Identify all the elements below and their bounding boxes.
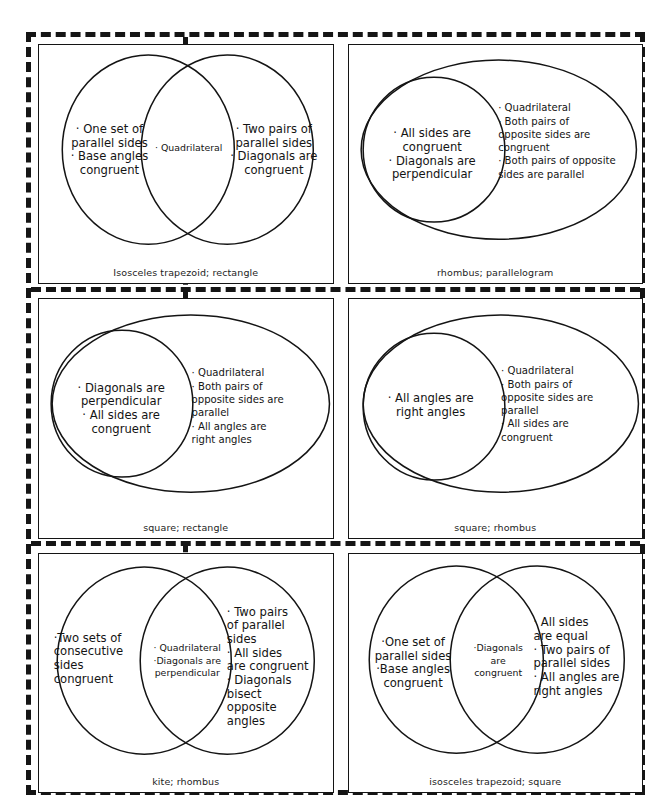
card-6-region-left: ·One set of parallel sides ·Base angles … <box>363 636 463 691</box>
card-2[interactable]: · All sides are congruent · Diagonals ar… <box>341 37 651 291</box>
card-4-region-outer: · Quadrilateral · Both pairs of opposite… <box>501 364 624 444</box>
card-4-body: · All angles are right angles · Quadrila… <box>348 298 644 538</box>
card-6-region-right: · All sides are equal · Two pairs of par… <box>533 616 636 698</box>
worksheet-sheet: · One set of parallel sides · Base angle… <box>26 32 645 795</box>
card-5-region-right: · Two pairs of parallel sides · All side… <box>227 606 327 729</box>
card-5-region-left: ·Two sets of consecutive sides congruent <box>54 632 151 687</box>
card-5-region-middle: · Quadrilateral ·Diagonals are perpendic… <box>148 642 227 679</box>
card-6-caption: isosceles trapezoid; square <box>349 776 643 787</box>
card-3[interactable]: · Diagonals are perpendicular · All side… <box>31 291 341 545</box>
card-6-region-middle: ·Diagonals are congruent <box>463 642 533 679</box>
card-3-region-outer: · Quadrilateral · Both pairs of opposite… <box>192 366 312 446</box>
card-3-body: · Diagonals are perpendicular · All side… <box>38 298 334 538</box>
card-1-body: · One set of parallel sides · Base angle… <box>38 44 334 284</box>
card-4-caption: square; rhombus <box>349 522 643 533</box>
card-5-body: ·Two sets of consecutive sides congruent… <box>38 553 334 793</box>
card-6[interactable]: ·One set of parallel sides ·Base angles … <box>341 546 651 800</box>
card-3-caption: square; rectangle <box>39 522 333 533</box>
card-2-body: · All sides are congruent · Diagonals ar… <box>348 44 644 284</box>
card-grid: · One set of parallel sides · Base angle… <box>31 37 650 800</box>
card-1[interactable]: · One set of parallel sides · Base angle… <box>31 37 341 291</box>
card-4-venn: · All angles are right angles · Quadrila… <box>349 299 643 515</box>
card-2-region-inner: · All sides are congruent · Diagonals ar… <box>372 127 492 182</box>
card-1-region-left: · One set of parallel sides · Base angle… <box>57 123 163 178</box>
card-5[interactable]: ·Two sets of consecutive sides congruent… <box>31 546 341 800</box>
card-4-region-inner: · All angles are right angles <box>372 392 489 419</box>
card-6-venn: ·One set of parallel sides ·Base angles … <box>349 554 643 770</box>
card-4[interactable]: · All angles are right angles · Quadrila… <box>341 291 651 545</box>
card-2-region-outer: · Quadrilateral · Both pairs of opposite… <box>498 101 627 181</box>
card-2-venn: · All sides are congruent · Diagonals ar… <box>349 45 643 261</box>
card-6-body: ·One set of parallel sides ·Base angles … <box>348 553 644 793</box>
card-1-region-right: · Two pairs of parallel sides · Diagonal… <box>221 123 327 178</box>
card-5-caption: kite; rhombus <box>39 776 333 787</box>
card-5-venn: ·Two sets of consecutive sides congruent… <box>39 554 333 770</box>
card-3-venn: · Diagonals are perpendicular · All side… <box>39 299 333 515</box>
card-1-caption: Isosceles trapezoid; rectangle <box>39 267 333 278</box>
card-1-venn: · One set of parallel sides · Base angle… <box>39 45 333 261</box>
card-2-caption: rhombus; parallelogram <box>349 267 643 278</box>
card-1-region-middle: · Quadrilateral <box>153 142 223 154</box>
card-3-region-inner: · Diagonals are perpendicular · All side… <box>60 382 183 437</box>
